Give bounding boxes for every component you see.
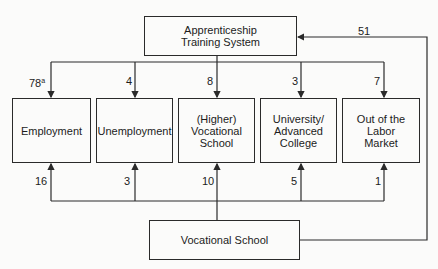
outcome-unemployment-box: Unemployment (96, 98, 173, 163)
flow-value-out-of-labor-top: 7 (374, 75, 380, 87)
flow-value-employment-bottom: 16 (35, 175, 47, 187)
flow-value-unemployment-top: 4 (126, 75, 132, 87)
outcome-label: University/ Advanced College (269, 113, 329, 149)
outcome-employment-box: Employment (12, 98, 91, 163)
flow-value-higher-vocational-bottom: 10 (202, 175, 214, 187)
footnote-marker: a (41, 77, 45, 84)
flow-value-unemployment-bottom: 3 (124, 175, 130, 187)
vocational-school-box: Vocational School (149, 220, 300, 260)
vocational-school-label: Vocational School (181, 234, 268, 246)
outcome-label: Employment (21, 125, 82, 137)
outcome-out-of-labor-market-box: Out of the Labor Market (342, 98, 420, 163)
outcome-label: Out of the Labor Market (353, 113, 409, 149)
outcome-higher-vocational-school-box: (Higher) Vocational School (178, 98, 255, 163)
flow-value-university-bottom: 5 (291, 175, 297, 187)
flow-value-university-top: 3 (292, 75, 298, 87)
apprenticeship-training-system-box: Apprenticeship Training System (144, 16, 297, 56)
outcome-university-box: University/ Advanced College (260, 98, 337, 163)
flow-value-higher-vocational-top: 8 (207, 75, 213, 87)
outcome-label: (Higher) Vocational School (186, 113, 248, 149)
outcome-label: Unemployment (98, 125, 172, 137)
feedback-flow-value: 51 (358, 25, 370, 37)
apprenticeship-box-label: Apprenticeship Training System (166, 24, 276, 48)
flow-value-out-of-labor-bottom: 1 (375, 175, 381, 187)
flow-value-employment-top: 78a (29, 75, 45, 89)
